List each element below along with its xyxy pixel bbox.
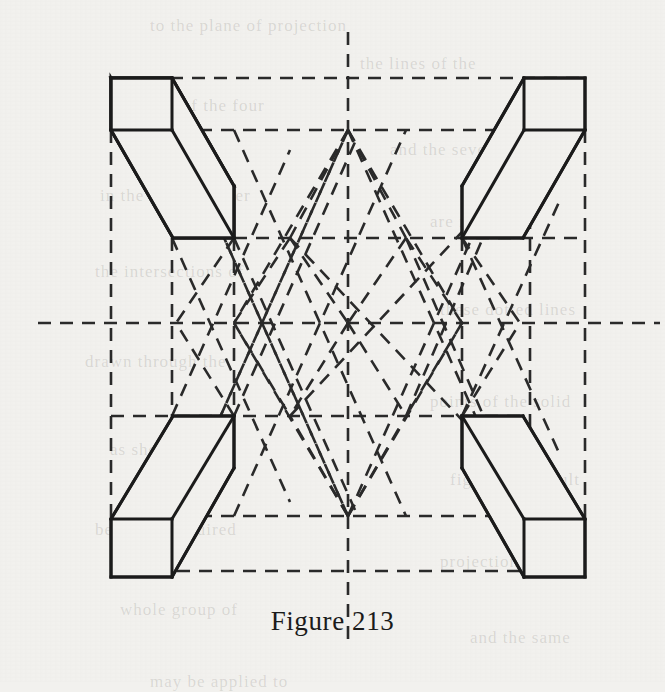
corner-link-bl xyxy=(176,323,234,416)
figure-caption: Figure 213 xyxy=(0,606,665,637)
box-bottom-right xyxy=(462,416,585,577)
apex-top-drop-left xyxy=(290,130,348,238)
apex-top-diag-right-short xyxy=(348,130,462,323)
descending-diag-5 xyxy=(290,238,462,420)
mesh-desc-a xyxy=(290,238,348,323)
corner-link-tl xyxy=(176,238,234,323)
box-top-right xyxy=(462,78,585,238)
box-bottom-left xyxy=(111,416,234,577)
corner-link-br xyxy=(462,323,520,416)
box-top-left xyxy=(111,78,234,238)
mesh-desc-b xyxy=(348,323,406,416)
apex-bottom-rise-right xyxy=(348,416,406,516)
apex-top-drop-right xyxy=(348,130,406,238)
apex-top-diag-left-short xyxy=(234,130,348,323)
